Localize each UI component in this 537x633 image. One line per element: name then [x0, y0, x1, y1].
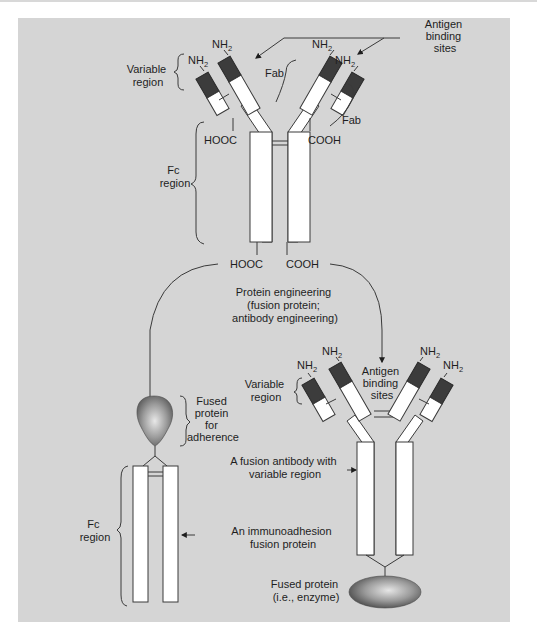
fc-chain-right: [163, 466, 178, 602]
nh2-label: NH2: [443, 359, 463, 374]
fused-protein-adherence-label: Fused protein for adherence: [187, 395, 239, 443]
fusion-heavy-stem-right: [396, 442, 413, 555]
fc-region-label: Fc region: [160, 164, 191, 189]
fc-region-label: Fc region: [80, 518, 111, 543]
protein-engineering-label: Protein engineering (fusion protein; ant…: [232, 286, 338, 324]
fusion-antibody-description: A fusion antibody with variable region: [230, 455, 339, 480]
antigen-site-arrow: [358, 38, 384, 54]
fused-enzyme-label: Fused protein (i.e., enzyme): [271, 578, 341, 603]
fc-region-brace: [117, 466, 128, 606]
immunoadhesion-description: An immunoadhesion fusion protein: [231, 525, 334, 550]
fused-enzyme-protein: [349, 576, 421, 608]
variable-region-brace: [294, 378, 302, 404]
cooh-label: COOH: [286, 258, 319, 270]
process-arrow-left: [150, 264, 218, 410]
antigen-binding-sites-label: Antigen binding sites: [425, 18, 465, 54]
cooh-label: COOH: [308, 134, 341, 146]
fc-chain-left: [133, 466, 148, 602]
top-right-heavy-stem: [288, 132, 310, 242]
fab-label: Fab: [265, 67, 284, 79]
antigen-binding-sites-label: Antigen binding sites: [362, 365, 402, 401]
nh2-label: NH2: [188, 54, 208, 69]
nh2-label: NH2: [312, 38, 332, 53]
hooc-label: HOOC: [230, 258, 263, 270]
hooc-label: HOOC: [204, 134, 237, 146]
top-left-heavy-stem: [250, 132, 272, 242]
nh2-label: NH2: [322, 345, 342, 360]
variable-region-label: Variable region: [245, 378, 288, 403]
antibody-engineering-diagram: NH2 NH2 NH2 NH2 HOOC COOH HOOC COOH Vari…: [0, 0, 537, 633]
immunoadhesion-fusion-protein: Fused protein for adherence Fc region An…: [80, 395, 335, 606]
fusion-antibody: NH2 NH2 NH2 NH2 Variable region Antigen …: [230, 345, 463, 608]
nh2-label: NH2: [297, 359, 317, 374]
top-antibody: NH2 NH2 NH2 NH2 HOOC COOH HOOC COOH Vari…: [127, 18, 465, 270]
variable-region-label: Variable region: [127, 63, 170, 88]
nh2-label: NH2: [212, 38, 232, 53]
fused-adherence-protein: [137, 396, 173, 446]
fc-region-brace: [191, 122, 204, 244]
variable-region-brace: [174, 54, 184, 90]
fusion-heavy-stem-left: [357, 442, 374, 555]
fab-label: Fab: [342, 114, 361, 126]
